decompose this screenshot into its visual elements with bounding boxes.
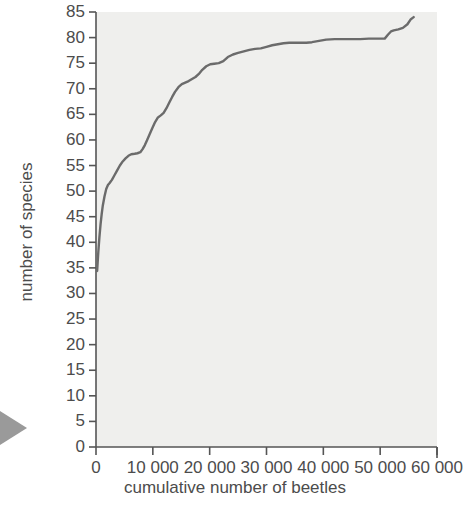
y-tick-label: 50 [51, 181, 85, 201]
x-tick-marks [96, 447, 437, 455]
y-tick-label: 20 [51, 335, 85, 355]
y-tick-label: 55 [51, 156, 85, 176]
axis-lines [96, 12, 437, 458]
y-tick-label: 35 [51, 258, 85, 278]
y-tick-label: 45 [51, 207, 85, 227]
x-axis-title: cumulative number of beetles [0, 478, 470, 498]
y-tick-label: 65 [51, 104, 85, 124]
x-tick-label: 60 000 [399, 458, 470, 478]
y-tick-label: 25 [51, 309, 85, 329]
y-tick-label: 70 [51, 79, 85, 99]
y-axis-title: number of species [17, 147, 37, 317]
species-accumulation-curve [97, 17, 414, 271]
y-tick-label: 60 [51, 130, 85, 150]
figure-container: 0510152025303540455055606570758085 010 0… [0, 0, 470, 505]
y-tick-label: 30 [51, 283, 85, 303]
y-tick-marks [89, 12, 96, 447]
y-tick-label: 5 [51, 411, 85, 431]
y-tick-label: 15 [51, 360, 85, 380]
y-tick-label: 0 [51, 437, 85, 457]
y-tick-label: 40 [51, 232, 85, 252]
y-tick-label: 80 [51, 28, 85, 48]
y-tick-label: 75 [51, 53, 85, 73]
y-tick-label: 10 [51, 386, 85, 406]
y-tick-label: 85 [51, 2, 85, 22]
